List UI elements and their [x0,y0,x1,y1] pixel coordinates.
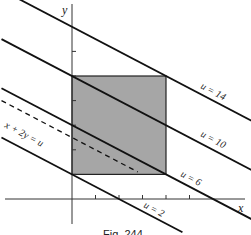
figure-caption: Fig. 244 [103,228,143,235]
x-axis-label: x [237,201,244,215]
level-label-u6: u = 6 [179,168,203,188]
y-axis-label: y [61,3,68,17]
level-curves-diagram: y x x + 2y = u u = 14 u = 10 u = 6 u = 2… [0,0,251,235]
shaded-region [72,76,166,174]
level-label-u14: u = 14 [199,80,228,102]
level-label-u2: u = 2 [142,199,166,219]
dashed-line-label: x + 2y = u [2,119,45,149]
level-label-u10: u = 10 [199,128,228,150]
